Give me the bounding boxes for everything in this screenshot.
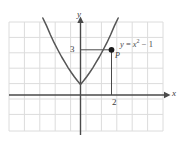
x-axis bbox=[9, 92, 171, 98]
point-label-p: P bbox=[115, 52, 120, 60]
y-tick-label-3: 3 bbox=[70, 45, 75, 54]
x-tick-label-2: 2 bbox=[112, 98, 117, 107]
equation-label: y = x2 − 1 bbox=[120, 38, 153, 48]
point-marker-p bbox=[109, 47, 115, 53]
reference-lines bbox=[81, 50, 112, 95]
equation-constant: 1 bbox=[149, 39, 153, 49]
coordinate-graph bbox=[0, 0, 184, 144]
graph-screenshot: x y 3 2 P y = x2 − 1 bbox=[0, 0, 184, 144]
y-axis bbox=[77, 17, 83, 136]
x-axis-label: x bbox=[172, 89, 176, 98]
y-axis-label: y bbox=[77, 10, 81, 19]
